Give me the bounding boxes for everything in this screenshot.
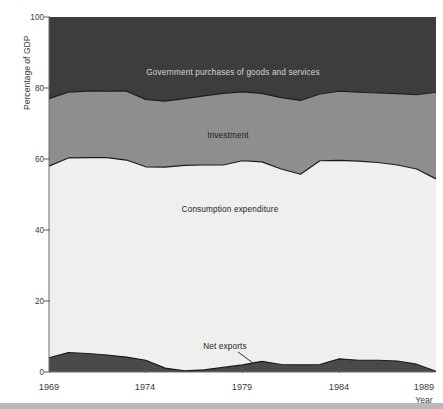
x-tick-label-1979: 1979 (232, 382, 252, 392)
x-tick-label-1984: 1984 (329, 382, 349, 392)
series-label-investment: Investment (207, 131, 249, 140)
y-tick-label-100: 100 (30, 13, 44, 22)
y-tick-label-20: 20 (35, 297, 45, 306)
chart-canvas: 100 80 60 40 20 0 1969 1974 1979 1984 19… (0, 0, 443, 409)
y-tick-label-40: 40 (35, 226, 45, 235)
x-tick-label-1989: 1989 (414, 382, 434, 392)
y-tick-label-60: 60 (35, 155, 45, 164)
y-tick-label-80: 80 (35, 84, 45, 93)
y-axis-title: Percentage of GDP (22, 35, 32, 110)
x-tick-label-1974: 1974 (135, 382, 155, 392)
page-bottom-strip (0, 403, 443, 409)
area-band-government (49, 17, 436, 101)
stacked-area-chart-figure: 100 80 60 40 20 0 1969 1974 1979 1984 19… (0, 0, 443, 409)
series-label-net-exports: Net exports (203, 342, 247, 351)
series-label-consumption: Consumption expenditure (182, 205, 279, 214)
x-tick-label-1969: 1969 (39, 382, 59, 392)
area-band-consumption (49, 158, 436, 372)
series-label-government: Government purchases of goods and servic… (146, 68, 319, 77)
y-tick-label-0: 0 (39, 368, 44, 377)
